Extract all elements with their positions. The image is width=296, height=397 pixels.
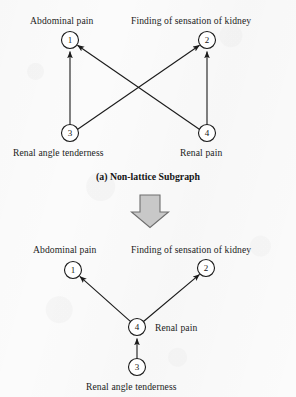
caption-text: Non-lattice Subgraph: [110, 171, 200, 182]
node-3-number: 3: [62, 129, 78, 138]
label-renal-pain-a: Renal pain: [180, 147, 222, 158]
node-b-2-number: 2: [198, 264, 214, 273]
panel-b-edges: [80, 274, 200, 358]
node-b-4-number: 4: [129, 323, 145, 332]
caption-panel-a: (a) Non-lattice Subgraph: [0, 171, 296, 182]
panel-b-nodes: [65, 260, 215, 376]
down-block-arrow: [132, 195, 169, 228]
figure-root: 1 2 3 4 Abdominal pain Finding of sensat…: [0, 0, 296, 397]
node-b-1-number: 1: [65, 266, 81, 275]
label-finding-of-sensation-of-kidney-b: Finding of sensation of kidney: [131, 244, 251, 255]
node-1-number: 1: [62, 36, 78, 45]
panel-a-edges: [70, 45, 207, 129]
label-finding-of-sensation-of-kidney-a: Finding of sensation of kidney: [131, 15, 251, 26]
edge-b-4-to-1: [80, 276, 131, 321]
diagram-canvas: [0, 0, 296, 397]
node-4-number: 4: [199, 129, 215, 138]
label-abdominal-pain-b: Abdominal pain: [33, 244, 96, 255]
node-2-number: 2: [199, 36, 215, 45]
node-b-3-number: 3: [129, 363, 145, 372]
label-renal-pain-b: Renal pain: [155, 322, 197, 333]
label-renal-angle-tenderness-a: Renal angle tenderness: [13, 147, 104, 158]
edge-b-4-to-2: [144, 274, 200, 321]
label-renal-angle-tenderness-b: Renal angle tenderness: [86, 381, 177, 392]
label-abdominal-pain-a: Abdominal pain: [30, 15, 93, 26]
caption-index: (a): [96, 171, 107, 182]
